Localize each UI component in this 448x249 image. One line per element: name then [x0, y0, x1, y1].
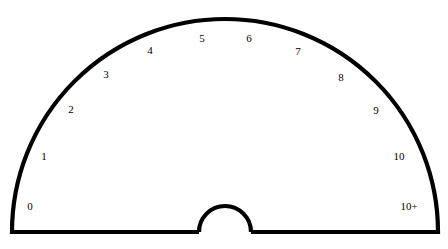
sector-label-9: 9	[373, 104, 379, 116]
sector-label-1: 1	[41, 150, 47, 162]
fan-dial-container: 01234567891010+	[0, 0, 448, 249]
sector-label-8: 8	[338, 71, 344, 83]
outer-boundary-path	[12, 19, 438, 232]
semicircular-fan-dial: 01234567891010+	[0, 0, 448, 249]
sector-label-2: 2	[68, 103, 74, 115]
sector-label-3: 3	[103, 68, 109, 80]
sector-label-10plus: 10+	[400, 200, 417, 212]
sector-label-6: 6	[246, 32, 252, 44]
sector-label-7: 7	[295, 45, 301, 57]
sector-label-0: 0	[27, 200, 33, 212]
sector-label-4: 4	[147, 44, 153, 56]
sector-label-5: 5	[199, 32, 205, 44]
sector-label-10: 10	[394, 150, 406, 162]
